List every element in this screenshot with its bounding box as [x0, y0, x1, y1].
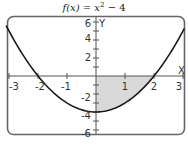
x-axis-label: X [178, 65, 185, 76]
plot-area: -3 -2 -1 1 2 3 6 4 2 -2 -4 -6 Y X [0, 0, 188, 145]
y-tick-label: 2 [85, 52, 91, 63]
y-tick-label: -2 [81, 92, 91, 103]
function-curve [6, 26, 184, 112]
y-axis-label: Y [98, 18, 106, 29]
x-tick-label: -3 [9, 81, 19, 92]
y-tick-label: 6 [85, 18, 91, 29]
y-tick-label: -4 [81, 110, 91, 121]
y-tick-label: -6 [81, 128, 91, 139]
x-tick-label: -1 [61, 81, 71, 92]
x-tick-label: -2 [35, 81, 45, 92]
x-tick-label: 2 [151, 81, 157, 92]
y-tick-label: 4 [85, 33, 91, 44]
x-tick-label: 3 [176, 81, 182, 92]
x-tick-label: 1 [122, 81, 128, 92]
